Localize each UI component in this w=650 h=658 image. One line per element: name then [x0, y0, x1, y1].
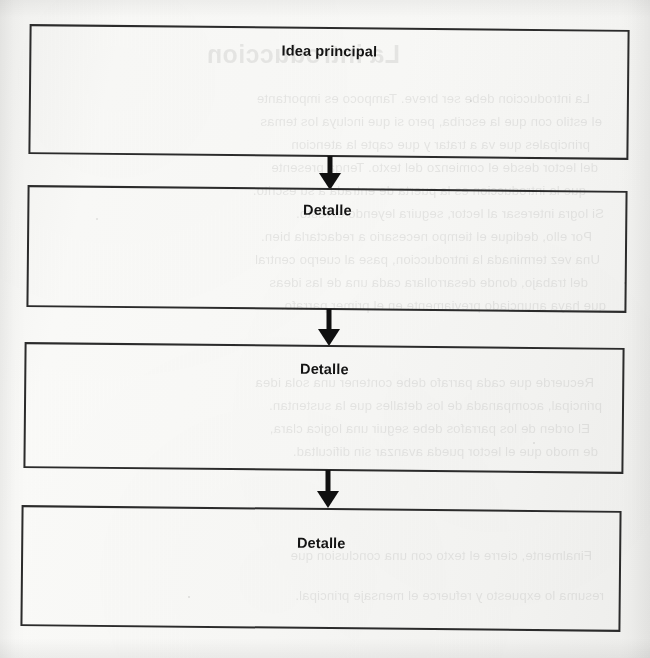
flow-node-label: Detalle: [26, 358, 622, 380]
arrow-head-icon: [317, 491, 339, 508]
paper-edge-shadow-bottom: [0, 638, 650, 658]
flow-connector-arrow-down: [317, 156, 343, 190]
scan-speck: [470, 100, 472, 102]
paper-edge-shadow-left: [0, 0, 26, 658]
paper-edge-shadow-top: [0, 0, 650, 18]
flow-node-label: Idea principal: [31, 40, 627, 62]
flow-node-detail-1[interactable]: Detalle: [26, 185, 627, 313]
flow-connector-arrow-down: [315, 470, 341, 508]
flow-node-detail-3[interactable]: Detalle: [20, 505, 621, 632]
scanned-page: La introduccion La introduccion debe ser…: [0, 0, 650, 658]
arrow-head-icon: [318, 329, 340, 346]
flow-node-detail-2[interactable]: Detalle: [23, 342, 624, 474]
scan-speck: [188, 596, 190, 598]
flow-node-label: Detalle: [23, 532, 619, 554]
paper-edge-shadow-right: [620, 0, 650, 658]
scan-speck: [96, 218, 98, 220]
flow-node-label: Detalle: [29, 199, 625, 221]
flow-node-main-idea[interactable]: Idea principal: [28, 24, 629, 160]
flowchart: Idea principal Detalle Detalle Detalle: [0, 0, 650, 658]
flow-connector-arrow-down: [316, 309, 342, 346]
scan-speck: [533, 442, 535, 444]
